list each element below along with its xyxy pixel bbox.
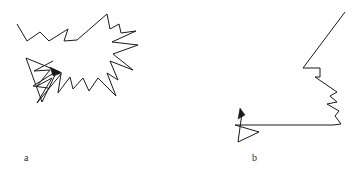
panel-b-drawing	[178, 0, 357, 179]
panel-a-label: a	[24, 153, 28, 163]
figure-panel-b: b	[178, 0, 356, 179]
stroke-jagged-outline	[17, 14, 138, 103]
figure-panel-a: a	[0, 0, 178, 179]
stroke-jagged-outline	[235, 12, 345, 125]
figure-root: a b	[0, 0, 357, 179]
panel-b-label: b	[252, 153, 257, 163]
